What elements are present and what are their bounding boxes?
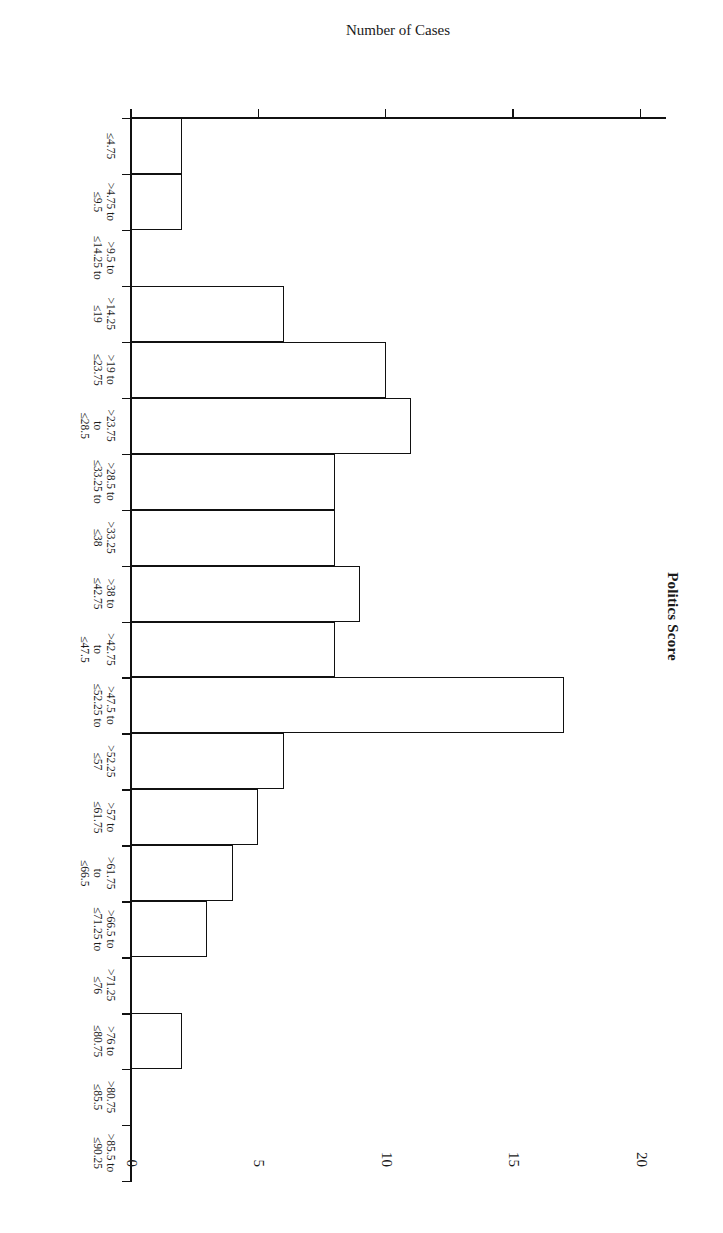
category-axis-tick: [122, 342, 131, 343]
value-axis-tick-label: 15: [505, 1152, 522, 1167]
category-axis-tick: [122, 901, 131, 902]
category-axis-tick: [122, 398, 131, 399]
value-axis-tick-label: 5: [250, 1160, 267, 1168]
category-axis-tick: [122, 510, 131, 511]
histogram-bar: [131, 733, 284, 789]
figure-canvas: Politics Score Number of Cases 05101520≤…: [0, 0, 723, 1233]
histogram-plot-area: Number of Cases 05101520≤4.75>4.75 to ≤9…: [131, 118, 666, 1181]
histogram-bar: [131, 510, 335, 566]
category-axis-tick: [122, 1069, 131, 1070]
value-axis-tick-label: 10: [377, 1152, 394, 1167]
category-axis-tick: [122, 454, 131, 455]
category-axis-tick: [122, 677, 131, 678]
category-axis-tick: [122, 566, 131, 567]
category-axis-tick: [122, 1125, 131, 1126]
category-axis-tick: [122, 789, 131, 790]
category-axis-tick: [122, 1181, 131, 1182]
value-axis-tick: [640, 109, 641, 118]
histogram-bar: [131, 286, 284, 342]
category-axis-tick: [122, 957, 131, 958]
histogram-bar: [131, 118, 182, 174]
histogram-bar: [131, 1013, 182, 1069]
category-axis-tick: [122, 118, 131, 119]
category-axis-tick: [122, 174, 131, 175]
value-axis-title: Number of Cases: [346, 22, 450, 39]
category-axis-tick: [122, 230, 131, 231]
value-axis-line: [131, 117, 666, 119]
histogram-bar: [131, 342, 386, 398]
histogram-bar: [131, 901, 207, 957]
histogram-bar: [131, 622, 335, 678]
histogram-bar: [131, 566, 360, 622]
value-axis-tick: [130, 109, 131, 118]
histogram-bar: [131, 398, 411, 454]
rotated-figure-stage: Politics Score Number of Cases 05101520≤…: [0, 0, 723, 1233]
value-axis-tick: [385, 109, 386, 118]
value-axis-tick-label: 20: [632, 1152, 649, 1167]
category-axis-tick: [122, 733, 131, 734]
histogram-bar: [131, 789, 258, 845]
category-axis-tick: [122, 622, 131, 623]
category-axis-tick: [122, 845, 131, 846]
value-axis-tick-label: 0: [123, 1160, 140, 1168]
histogram-bar: [131, 845, 233, 901]
value-axis-tick: [258, 109, 259, 118]
value-axis-tick: [512, 109, 513, 118]
histogram-bar: [131, 174, 182, 230]
category-axis-tick: [122, 286, 131, 287]
page-title: Politics Score: [664, 0, 681, 1233]
histogram-bar: [131, 454, 335, 510]
histogram-bar: [131, 677, 564, 733]
category-axis-label: >85.5 to ≤90.25: [91, 1104, 117, 1202]
category-axis-tick: [122, 1013, 131, 1014]
